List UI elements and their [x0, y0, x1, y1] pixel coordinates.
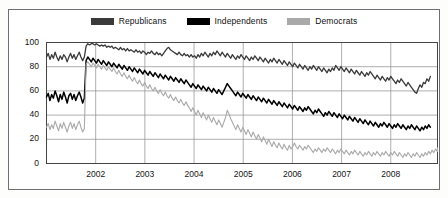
x-tick-2008: 2008 — [374, 170, 408, 179]
y-tick-80: 80 — [15, 62, 39, 71]
figure-container: Republicans Independents Democrats 02040… — [0, 0, 448, 198]
plot-area: 020406080100 200220032004200520062007200… — [0, 0, 448, 198]
y-tick-40: 40 — [15, 110, 39, 119]
y-tick-20: 20 — [15, 134, 39, 143]
y-tick-100: 100 — [15, 38, 39, 47]
x-tick-2005: 2005 — [226, 170, 260, 179]
plot-border — [47, 43, 438, 164]
y-tick-0: 0 — [15, 159, 39, 168]
x-tick-2002: 2002 — [79, 170, 113, 179]
x-tick-2004: 2004 — [177, 170, 211, 179]
gridlines — [47, 43, 438, 164]
y-tick-60: 60 — [15, 86, 39, 95]
x-tick-2003: 2003 — [128, 170, 162, 179]
x-tick-2006: 2006 — [275, 170, 309, 179]
x-tick-2007: 2007 — [325, 170, 359, 179]
series-lines — [47, 44, 438, 158]
